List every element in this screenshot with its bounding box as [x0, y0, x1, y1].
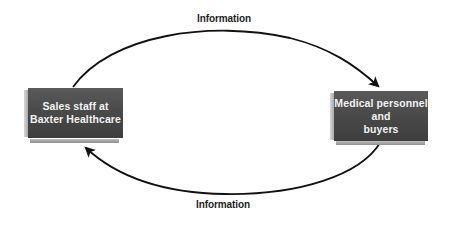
bottom-arrow-path: [86, 143, 380, 194]
node-medical-personnel-line-1: Medical personnel: [334, 97, 427, 110]
node-medical-personnel-line-2: and: [372, 110, 391, 123]
node-sales-staff-line-2: Baxter Healthcare: [30, 113, 121, 126]
top-edge-label: Information: [197, 13, 251, 24]
medical-personnel-bottom-accent: [336, 141, 425, 145]
node-medical-personnel-line-3: buyers: [363, 123, 398, 136]
bottom-edge-label: Information: [196, 199, 250, 210]
node-medical-personnel: Medical personnel and buyers: [334, 91, 428, 141]
node-sales-staff-line-1: Sales staff at: [42, 100, 108, 113]
node-sales-staff: Sales staff at Baxter Healthcare: [28, 88, 123, 138]
diagram-canvas: Sales staff at Baxter Healthcare Medical…: [0, 0, 455, 225]
top-arrow-path: [73, 31, 378, 87]
sales-staff-bottom-accent: [30, 139, 119, 143]
